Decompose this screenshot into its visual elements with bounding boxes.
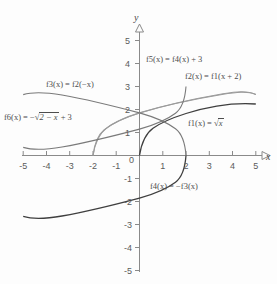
curve-f3 bbox=[23, 92, 186, 155]
curve-f2-main bbox=[93, 92, 256, 156]
x-tick-label: -4 bbox=[42, 161, 50, 171]
annotation-f1: f1(x) = √x bbox=[188, 118, 224, 128]
y-tick-label: -2 bbox=[124, 197, 132, 207]
x-tick-label: 5 bbox=[253, 161, 258, 171]
x-tick-labels: -5 -4 -3 -2 -1 0 1 2 3 4 5 bbox=[19, 155, 258, 171]
y-axis-arrow bbox=[136, 24, 144, 32]
annotation-f3: f3(x) = f2(−x) bbox=[46, 80, 94, 89]
annotation-f5: f5(x) = f4(x) + 3 bbox=[146, 55, 202, 64]
y-tick-label: -5 bbox=[124, 266, 132, 276]
annotation-f2: f2(x) = f1(x + 2) bbox=[185, 72, 241, 81]
annotation-f1-head: f1(x) = bbox=[188, 118, 214, 128]
annotation-f6-head: f6(x) = − bbox=[4, 112, 35, 122]
x-tick-label: -1 bbox=[112, 161, 120, 171]
x-tick-label-origin: 0 bbox=[129, 155, 134, 165]
x-tick-label: 2 bbox=[183, 161, 188, 171]
graph-figure: -5 -4 -3 -2 -1 0 1 2 3 4 5 5 4 3 2 1 -1 … bbox=[0, 0, 277, 284]
y-axis-label: y bbox=[133, 12, 139, 23]
x-tick-label: -5 bbox=[19, 161, 27, 171]
annotation-f6-radicand: 2 − x bbox=[39, 112, 59, 122]
curve-f1 bbox=[140, 104, 256, 156]
y-tick-label: 2 bbox=[125, 105, 130, 115]
x-tick-label: -2 bbox=[89, 161, 97, 171]
annotation-f4: f4(x) = −f3(x) bbox=[150, 182, 198, 191]
x-tick-label: 1 bbox=[160, 161, 165, 171]
y-tick-label: -3 bbox=[124, 220, 132, 230]
x-tick-label: -3 bbox=[66, 161, 74, 171]
annotation-f6-tail: + 3 bbox=[59, 112, 72, 122]
y-tick-label: 3 bbox=[125, 82, 130, 92]
annotation-f1-radicand: x bbox=[218, 118, 224, 128]
y-tick-label: 1 bbox=[125, 128, 130, 138]
y-tick-label: 5 bbox=[125, 36, 130, 46]
y-tick-label: -4 bbox=[124, 243, 132, 253]
x-tick-label: 3 bbox=[207, 161, 212, 171]
y-tick-label: 4 bbox=[125, 59, 130, 69]
coordinate-plane: -5 -4 -3 -2 -1 0 1 2 3 4 5 5 4 3 2 1 -1 … bbox=[0, 0, 277, 284]
x-axis-label: x bbox=[265, 151, 271, 162]
x-tick-label: 4 bbox=[230, 161, 235, 171]
annotation-f6: f6(x) = −√2 − x + 3 bbox=[4, 112, 72, 122]
y-tick-label: -1 bbox=[124, 174, 132, 184]
curve-f2 bbox=[93, 92, 256, 155]
